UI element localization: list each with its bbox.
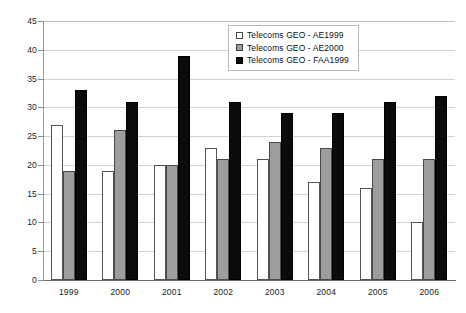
y-tick-label: 45 xyxy=(9,17,37,26)
x-tick-label-1999: 1999 xyxy=(43,288,95,297)
x-tick-label-2004: 2004 xyxy=(300,288,352,297)
bar-2002-series3 xyxy=(229,102,241,280)
legend-swatch-icon xyxy=(236,57,243,64)
bar-2006-series2 xyxy=(423,159,435,280)
legend-item-2: Telecoms GEO - AE2000 xyxy=(236,44,349,53)
bar-2005-series1 xyxy=(360,188,372,280)
legend-item-3: Telecoms GEO - FAA1999 xyxy=(236,56,349,65)
y-tick-label: 15 xyxy=(9,190,37,199)
x-tick-label-2003: 2003 xyxy=(249,288,301,297)
bar-1999-series3 xyxy=(75,90,87,280)
bar-group-1999 xyxy=(43,21,95,280)
bar-2000-series2 xyxy=(114,130,126,280)
bar-2006-series1 xyxy=(411,222,423,280)
legend-item-1: Telecoms GEO - AE1999 xyxy=(236,31,349,40)
bar-2001-series2 xyxy=(166,165,178,280)
bar-2002-series2 xyxy=(217,159,229,280)
y-tick-label: 20 xyxy=(9,161,37,170)
x-tick-label-2000: 2000 xyxy=(94,288,146,297)
legend-swatch-icon xyxy=(236,32,243,39)
bar-group-2001 xyxy=(146,21,198,280)
bar-group-2006 xyxy=(404,21,456,280)
y-tick-label: 40 xyxy=(9,46,37,55)
x-tick-label-2006: 2006 xyxy=(403,288,455,297)
bar-2001-series1 xyxy=(154,165,166,280)
bar-2001-series3 xyxy=(178,56,190,280)
y-tick-label: 30 xyxy=(9,103,37,112)
chart-legend: Telecoms GEO - AE1999Telecoms GEO - AE20… xyxy=(228,25,359,71)
bar-2003-series1 xyxy=(257,159,269,280)
y-tick-label: 25 xyxy=(9,132,37,141)
y-tick-label: 5 xyxy=(9,247,37,256)
y-tick-label: 10 xyxy=(9,218,37,227)
bar-chart: 051015202530354045 199920002001200220032… xyxy=(0,0,466,313)
bar-2000-series3 xyxy=(126,102,138,280)
bar-2004-series2 xyxy=(320,148,332,280)
legend-item-label: Telecoms GEO - AE2000 xyxy=(247,44,344,53)
x-tick-label-2001: 2001 xyxy=(146,288,198,297)
bar-2004-series1 xyxy=(308,182,320,280)
bar-2004-series3 xyxy=(332,113,344,280)
bar-2003-series3 xyxy=(281,113,293,280)
legend-item-label: Telecoms GEO - AE1999 xyxy=(247,31,344,40)
y-tick-label: 35 xyxy=(9,75,37,84)
bar-2002-series1 xyxy=(205,148,217,280)
y-tick-label: 0 xyxy=(9,276,37,285)
bar-2005-series2 xyxy=(372,159,384,280)
bar-group-2000 xyxy=(95,21,147,280)
bar-group-2005 xyxy=(352,21,404,280)
legend-swatch-icon xyxy=(236,44,243,51)
bar-2000-series1 xyxy=(102,171,114,280)
bar-2005-series3 xyxy=(384,102,396,280)
bar-1999-series2 xyxy=(63,171,75,280)
x-tick-label-2005: 2005 xyxy=(352,288,404,297)
legend-item-label: Telecoms GEO - FAA1999 xyxy=(247,56,349,65)
bar-2006-series3 xyxy=(435,96,447,280)
bar-2003-series2 xyxy=(269,142,281,280)
bar-1999-series1 xyxy=(51,125,63,280)
x-tick-label-2002: 2002 xyxy=(197,288,249,297)
